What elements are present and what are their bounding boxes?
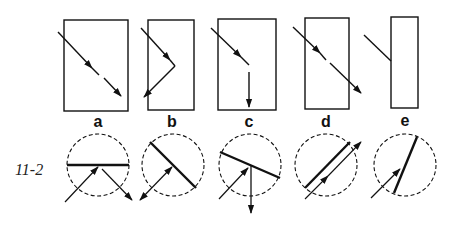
panel-b-block — [141, 20, 194, 110]
panel-e-block — [364, 17, 418, 108]
panel-label-c: c — [245, 114, 254, 130]
panel-d-block — [293, 18, 361, 109]
panel-e-circle — [371, 134, 436, 198]
panel-c-circle — [219, 134, 281, 213]
panel-c-block — [211, 19, 276, 110]
panel-b-circle — [140, 134, 204, 200]
panel-a-block — [58, 20, 128, 111]
optics-diagram — [0, 0, 469, 230]
panel-a-circle — [65, 134, 132, 202]
panel-d-circle — [295, 134, 361, 199]
panel-label-a: a — [94, 114, 103, 130]
panel-label-d: d — [321, 114, 331, 130]
panel-label-e: e — [401, 113, 410, 129]
panel-label-b: b — [167, 114, 177, 130]
figure-number: 11-2 — [15, 161, 43, 179]
